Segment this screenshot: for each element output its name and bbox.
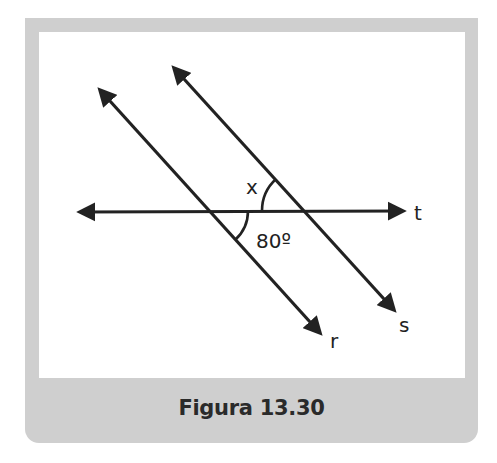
line-t — [80, 211, 403, 212]
label-r: r — [330, 329, 339, 353]
label-s: s — [399, 313, 409, 337]
line-s — [174, 68, 394, 310]
label-t: t — [414, 201, 422, 225]
angle-x-arc — [262, 179, 276, 211]
geometry-diagram: x 80º t r s — [0, 0, 497, 463]
label-x: x — [246, 175, 258, 199]
angle-80-arc — [235, 211, 248, 240]
label-80-degrees: 80º — [256, 229, 291, 253]
